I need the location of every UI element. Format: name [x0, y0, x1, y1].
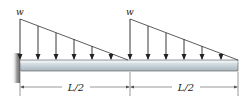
- fixed-support-wall: [12, 53, 20, 83]
- beam-diagram: w w L/2 L/2: [0, 0, 250, 112]
- load-label-left: w: [16, 7, 24, 17]
- span-label-right: L/2: [177, 82, 194, 93]
- dimension-lines: [20, 72, 238, 96]
- load-label-right: w: [126, 7, 134, 17]
- beam: [20, 60, 238, 71]
- span-label-left: L/2: [67, 82, 84, 93]
- triangular-load-right: [128, 19, 239, 60]
- triangular-load-left: [18, 19, 129, 60]
